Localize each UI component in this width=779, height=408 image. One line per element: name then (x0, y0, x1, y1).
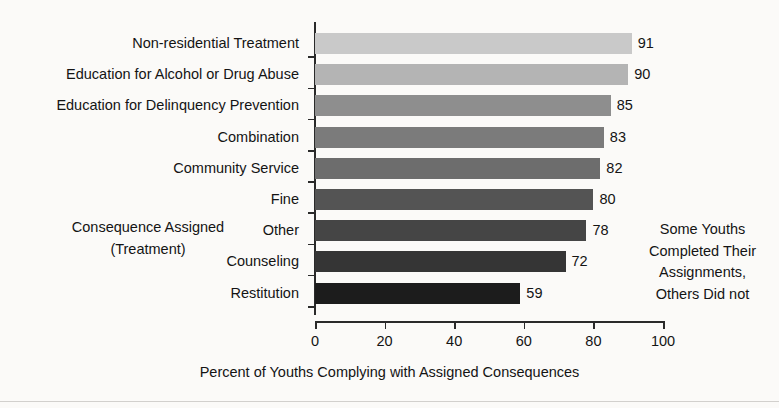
bar-chart: Non-residential TreatmentEducation for A… (0, 0, 779, 408)
y-axis-title-line-1: Consequence Assigned (28, 216, 268, 238)
x-axis-tick-label: 100 (651, 333, 675, 349)
y-axis-tick (308, 181, 316, 183)
x-axis-tick-label: 20 (377, 333, 393, 349)
x-axis-tick (454, 321, 456, 329)
bar (315, 220, 586, 241)
bar (315, 33, 632, 54)
bar (315, 189, 593, 210)
page-divider (0, 401, 779, 402)
x-axis-tick (524, 321, 526, 329)
x-axis-tick-label: 40 (446, 333, 462, 349)
y-axis-tick (308, 150, 316, 152)
annotation-line-3: Assignments, (630, 262, 775, 284)
category-label: Non-residential Treatment (0, 28, 306, 59)
x-axis-tick-label: 0 (311, 333, 319, 349)
bar-value-label: 85 (611, 95, 633, 116)
category-label: Combination (0, 122, 306, 153)
bar-row: 72 (315, 246, 663, 277)
category-label: Education for Alcohol or Drug Abuse (0, 59, 306, 90)
bar-value-label: 83 (604, 127, 626, 148)
x-axis-tick (385, 321, 387, 329)
bar-row: 85 (315, 90, 663, 121)
y-axis-tick (308, 88, 316, 90)
bar-row: 91 (315, 28, 663, 59)
y-axis-tick (308, 212, 316, 214)
y-axis-tick (308, 244, 316, 246)
y-axis-tick (308, 306, 316, 308)
x-axis-tick (593, 321, 595, 329)
x-axis-tick (315, 321, 317, 329)
y-axis-tick (308, 275, 316, 277)
bar-row: 78 (315, 215, 663, 246)
bar-value-label: 90 (628, 64, 650, 85)
bar-value-label: 59 (520, 283, 542, 304)
bar (315, 64, 628, 85)
category-label: Community Service (0, 153, 306, 184)
bar-value-label: 72 (566, 251, 588, 272)
plot-area: 919085838280787259 (315, 28, 663, 309)
x-axis-tick-label: 80 (585, 333, 601, 349)
x-axis-tick-label: 60 (516, 333, 532, 349)
annotation-line-4: Others Did not (630, 284, 775, 306)
bar-row: 90 (315, 59, 663, 90)
bar (315, 251, 566, 272)
bar (315, 127, 604, 148)
annotation-line-2: Completed Their (630, 241, 775, 263)
bar (315, 158, 600, 179)
bar-row: 83 (315, 122, 663, 153)
bar-value-label: 82 (600, 158, 622, 179)
bar-value-label: 80 (593, 189, 615, 210)
bar (315, 95, 611, 116)
x-axis-title: Percent of Youths Complying with Assigne… (0, 364, 779, 380)
y-axis-title-line-2: (Treatment) (28, 238, 268, 260)
category-label: Education for Delinquency Prevention (0, 90, 306, 121)
bar-value-label: 78 (586, 220, 608, 241)
y-axis-tick (308, 56, 316, 58)
category-axis-labels: Non-residential TreatmentEducation for A… (0, 28, 306, 309)
bar (315, 283, 520, 304)
bar-row: 82 (315, 153, 663, 184)
bar-row: 59 (315, 278, 663, 309)
x-axis-line (315, 321, 664, 323)
category-label: Fine (0, 184, 306, 215)
bar-row: 80 (315, 184, 663, 215)
y-axis-tick (308, 119, 316, 121)
y-axis-title: Consequence Assigned (Treatment) (28, 216, 268, 260)
chart-annotation: Some Youths Completed Their Assignments,… (630, 219, 775, 305)
category-label: Restitution (0, 278, 306, 309)
annotation-line-1: Some Youths (630, 219, 775, 241)
x-axis-tick (663, 321, 665, 329)
bar-value-label: 91 (632, 33, 654, 54)
